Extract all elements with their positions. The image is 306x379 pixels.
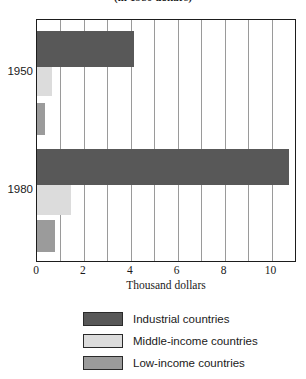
xtick-label-8: 8 <box>211 264 237 276</box>
xtick-label-2: 2 <box>70 264 96 276</box>
category-label-1980: 1980 <box>2 183 33 195</box>
category-label-1950: 1950 <box>2 65 33 77</box>
bar-1980-low-income <box>37 220 55 252</box>
gridline-10 <box>272 20 273 261</box>
xtick-label-6: 6 <box>164 264 190 276</box>
bar-1950-middle-income <box>37 67 52 96</box>
legend-label-industrial: Industrial countries <box>133 312 230 327</box>
gridline-5 <box>154 20 155 261</box>
plot-area <box>36 19 296 262</box>
chart-title: (in 1980 dollars) <box>0 0 306 3</box>
legend-label-low-income: Low-income countries <box>133 356 245 371</box>
gridline-6 <box>178 20 179 261</box>
legend-item-low-income: Low-income countries <box>83 354 293 374</box>
bar-1950-low-income <box>37 103 45 135</box>
legend-item-middle-income: Middle-income countries <box>83 332 293 352</box>
x-axis-title: Thousand dollars <box>36 279 296 291</box>
xtick-label-10: 10 <box>258 264 284 276</box>
gridline-7 <box>201 20 202 261</box>
gridline-8 <box>225 20 226 261</box>
gridline-9 <box>248 20 249 261</box>
legend-label-middle-income: Middle-income countries <box>133 334 258 349</box>
bar-1980-industrial <box>37 149 289 185</box>
legend-swatch-low-income <box>83 356 123 370</box>
bar-1980-middle-income <box>37 185 71 215</box>
legend: Industrial countries Middle-income count… <box>83 310 293 376</box>
bar-chart-figure: (in 1980 dollars) 1950 1980 0 2 4 6 8 10… <box>0 0 306 379</box>
bar-1950-industrial <box>37 31 134 67</box>
legend-item-industrial: Industrial countries <box>83 310 293 330</box>
xtick-label-0: 0 <box>23 264 49 276</box>
legend-swatch-middle-income <box>83 334 123 348</box>
xtick-label-4: 4 <box>117 264 143 276</box>
legend-swatch-industrial <box>83 312 123 326</box>
